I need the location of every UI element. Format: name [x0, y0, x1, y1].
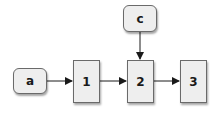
node-2: 2 — [127, 60, 154, 103]
node-1: 1 — [73, 60, 100, 103]
node-3: 3 — [180, 60, 207, 103]
node-c: c — [123, 5, 157, 32]
node-3-label: 3 — [189, 75, 197, 89]
node-1-label: 1 — [82, 75, 90, 89]
node-a-label: a — [26, 74, 34, 88]
node-c-label: c — [136, 12, 143, 26]
node-2-label: 2 — [136, 75, 144, 89]
node-a: a — [13, 68, 47, 94]
